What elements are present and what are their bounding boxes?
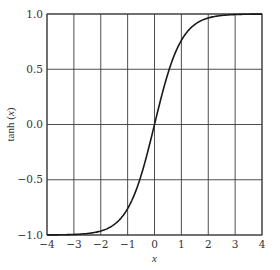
x-tick-labels: −4−3−2−101234 xyxy=(39,238,265,250)
x-tick-label: −1 xyxy=(120,238,135,250)
x-tick-label: 3 xyxy=(232,238,239,250)
y-tick-label: 0.0 xyxy=(26,118,43,130)
x-tick-label: 2 xyxy=(205,238,212,250)
tanh-chart: −1.0−0.50.00.51.0 −4−3−2−101234 x tanh (… xyxy=(0,0,280,270)
x-tick-label: 1 xyxy=(178,238,185,250)
x-axis-label: x xyxy=(151,252,157,264)
x-tick-label: −2 xyxy=(93,238,108,250)
y-tick-labels: −1.0−0.50.00.51.0 xyxy=(18,8,44,241)
y-axis-label: tanh (x) xyxy=(4,107,17,141)
x-tick-label: −4 xyxy=(39,238,55,250)
y-tick-label: 1.0 xyxy=(26,8,43,20)
x-tick-label: −3 xyxy=(66,238,81,250)
y-tick-label: −0.5 xyxy=(18,173,44,185)
y-tick-label: 0.5 xyxy=(26,63,43,75)
x-tick-label: 4 xyxy=(259,238,266,250)
x-tick-label: 0 xyxy=(151,238,158,250)
